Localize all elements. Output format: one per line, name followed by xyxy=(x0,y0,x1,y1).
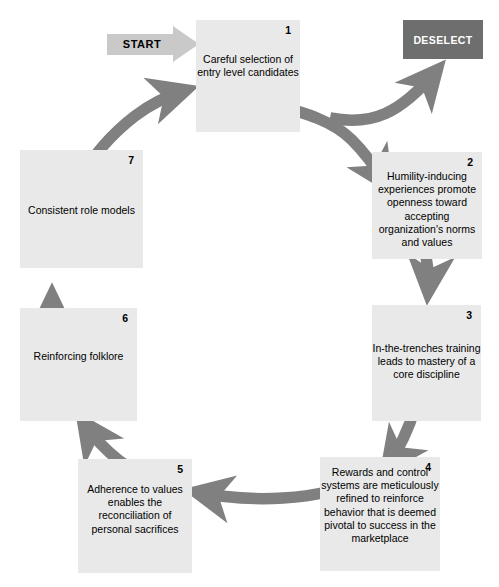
stage-number-6: 6 xyxy=(122,313,128,324)
stage-box-6: 6 Reinforcing folklore xyxy=(20,308,137,421)
stage-box-2: 2 Humility-inducing experiences promote … xyxy=(372,152,482,259)
deselect-label: DESELECT xyxy=(413,34,472,46)
start-arrow: START xyxy=(107,26,199,63)
stage-box-4: 4 Rewards and control systems are meticu… xyxy=(320,457,440,571)
stage-box-3: 3 In-the-trenches training leads to mast… xyxy=(372,305,481,421)
stage-text-1: Careful selection of entry level candida… xyxy=(196,53,300,79)
socialization-cycle-diagram: START 1 Careful selection of entry level… xyxy=(0,0,499,587)
stage-text-7: Consistent role models xyxy=(20,204,143,217)
stage-number-5: 5 xyxy=(177,464,183,475)
deselect-terminal-box: DESELECT xyxy=(403,20,483,59)
stage-number-2: 2 xyxy=(467,157,473,168)
start-label: START xyxy=(107,36,177,53)
stage-box-1: 1 Careful selection of entry level candi… xyxy=(196,20,300,132)
stage-number-1: 1 xyxy=(285,25,291,36)
stage-box-5: 5 Adherence to values enables the reconc… xyxy=(78,459,192,573)
flow-fork-to-deselect xyxy=(330,70,437,120)
stage-text-6: Reinforcing folklore xyxy=(20,350,137,363)
stage-text-2: Humility-inducing experiences promote op… xyxy=(372,170,482,249)
stage-box-7: 7 Consistent role models xyxy=(20,150,143,268)
stage-text-5: Adherence to values enables the reconcil… xyxy=(78,483,192,536)
stage-text-4: Rewards and control systems are meticulo… xyxy=(320,466,440,545)
stage-number-7: 7 xyxy=(128,155,134,166)
stage-text-3: In-the-trenches training leads to master… xyxy=(372,342,481,382)
stage-number-3: 3 xyxy=(466,310,472,321)
